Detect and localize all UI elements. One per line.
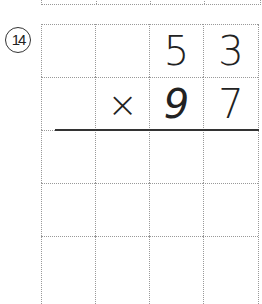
grid-cell[interactable] — [41, 24, 95, 77]
answer-cell[interactable] — [149, 130, 203, 183]
digit-cell: 7 — [203, 77, 258, 130]
answer-cell[interactable] — [41, 236, 95, 304]
digit-cell: 9 — [149, 77, 203, 130]
answer-cell[interactable] — [203, 236, 258, 304]
grid-cell[interactable] — [95, 24, 149, 77]
grid-cell[interactable] — [41, 77, 95, 130]
answer-cell[interactable] — [41, 183, 95, 236]
answer-cell[interactable] — [149, 236, 203, 304]
answer-cell[interactable] — [95, 236, 149, 304]
answer-cell[interactable] — [95, 130, 149, 183]
previous-problem-grid-edge — [41, 0, 261, 5]
grid-right-border — [258, 24, 259, 304]
answer-line — [55, 129, 259, 131]
answer-cell[interactable] — [95, 183, 149, 236]
digit-cell: 3 — [203, 24, 258, 77]
digit-cell: 5 — [149, 24, 203, 77]
answer-cell[interactable] — [203, 130, 258, 183]
multiply-sign: × — [95, 77, 149, 130]
answer-cell[interactable] — [203, 183, 258, 236]
multiplication-grid: 5 3 × 9 7 — [41, 24, 259, 304]
answer-cell[interactable] — [149, 183, 203, 236]
problem-number: 14 — [5, 27, 31, 53]
answer-cell[interactable] — [41, 130, 95, 183]
